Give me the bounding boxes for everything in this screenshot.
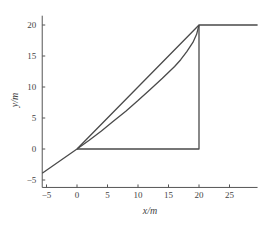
x-axis-label: x/m: [142, 205, 157, 216]
series-approach-and-exit-path: [42, 25, 257, 173]
x-tick-label: 10: [134, 190, 144, 200]
x-tick-label: 5: [105, 190, 110, 200]
y-tick-label: 5: [32, 113, 37, 123]
plot-series: [42, 25, 257, 173]
y-tick-label: −5: [27, 175, 37, 185]
axes: −50510152025−505101520: [27, 16, 258, 201]
y-tick-label: 10: [27, 82, 37, 92]
x-tick-label: 0: [75, 190, 80, 200]
x-tick-label: 20: [195, 190, 205, 200]
y-tick-label: 15: [27, 51, 37, 61]
x-tick-label: −5: [42, 190, 52, 200]
x-tick-label: 25: [225, 190, 235, 200]
y-tick-label: 0: [32, 144, 37, 154]
chart: −50510152025−505101520 x/m y/m: [0, 0, 274, 225]
x-tick-label: 15: [164, 190, 174, 200]
y-tick-label: 20: [27, 20, 37, 30]
y-axis-label: y/m: [9, 93, 20, 108]
